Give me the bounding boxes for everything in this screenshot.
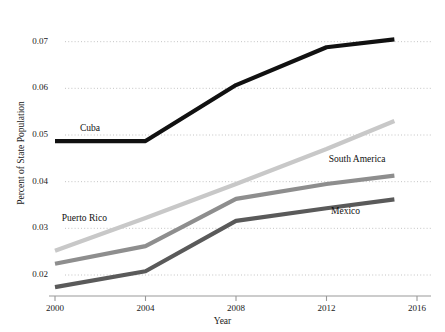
series-label-puerto-rico: Puerto Rico (62, 213, 107, 223)
series-label-mexico: Mexico (331, 206, 360, 216)
y-tick-label-3: 0.05 (12, 129, 48, 139)
x-tick-label-1: 2004 (126, 303, 166, 313)
x-tick-label-4: 2016 (397, 303, 437, 313)
y-tick-label-1: 0.03 (12, 222, 48, 232)
y-tick-label-2: 0.04 (12, 176, 48, 186)
x-tick-label-3: 2012 (307, 303, 347, 313)
line-chart: Percent of State Population Year 2000200… (0, 0, 445, 332)
x-tick-label-2: 2008 (216, 303, 256, 313)
y-tick-label-4: 0.06 (12, 82, 48, 92)
y-tick-label-0: 0.02 (12, 269, 48, 279)
series-label-cuba: Cuba (80, 123, 100, 133)
y-axis-title: Percent of State Population (16, 88, 26, 218)
series-label-south-america: South America (329, 154, 386, 164)
plot-area (0, 0, 445, 332)
series-line-cuba (55, 39, 394, 141)
y-tick-label-5: 0.07 (12, 36, 48, 46)
x-axis-title: Year (0, 316, 445, 326)
x-tick-label-0: 2000 (35, 303, 75, 313)
